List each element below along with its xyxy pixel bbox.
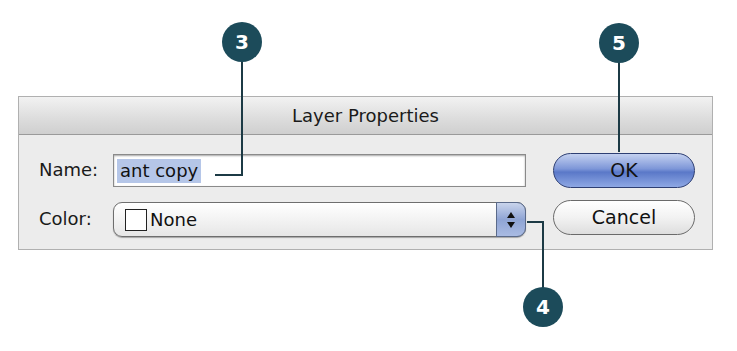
name-label: Name: <box>39 159 98 180</box>
callout-5-leader <box>618 60 620 152</box>
callout-4: 4 <box>523 287 563 327</box>
dialog-title: Layer Properties <box>19 97 712 135</box>
name-value: ant copy <box>117 159 201 183</box>
callout-5: 5 <box>599 23 639 63</box>
layer-properties-dialog: Layer Properties Name: ant copy Color: N… <box>18 96 713 250</box>
callout-3-leader <box>241 60 243 176</box>
ok-button[interactable]: OK <box>553 153 695 188</box>
cancel-button[interactable]: Cancel <box>553 200 695 235</box>
popup-stepper-icon[interactable] <box>496 202 526 237</box>
color-value: None <box>150 203 197 236</box>
color-label: Color: <box>39 208 92 229</box>
name-field[interactable]: ant copy <box>113 154 526 187</box>
color-popup[interactable]: None <box>113 202 526 237</box>
color-swatch-icon <box>125 209 147 231</box>
callout-3: 3 <box>222 22 262 62</box>
callout-3-leader-h <box>215 174 243 176</box>
callout-4-leader <box>542 221 544 291</box>
